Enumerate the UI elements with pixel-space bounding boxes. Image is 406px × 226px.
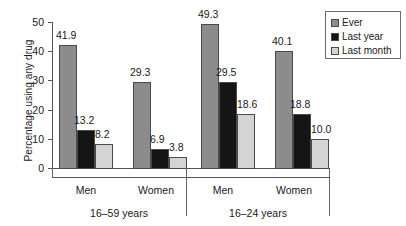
legend-swatch-last-year-icon (331, 33, 339, 41)
bar-value-g1-men-ever: 41.9 (56, 30, 76, 41)
group-label-16-24: 16–24 years (186, 207, 330, 219)
bar-g1-women-ever (133, 82, 151, 169)
bar-value-g2-men-last-year: 29.5 (216, 67, 236, 78)
group1-band-line (52, 177, 186, 178)
legend: Ever Last year Last month (325, 11, 401, 59)
legend-label-last-month: Last month (342, 46, 391, 56)
category-label-g2-women: Women (266, 184, 322, 196)
legend-item-last-year[interactable]: Last year (331, 30, 395, 43)
y-tick-label-20: 20 (22, 105, 44, 115)
bar-value-g2-women-ever: 40.1 (272, 36, 292, 47)
bar-value-g2-men-last-month: 18.6 (237, 99, 257, 110)
y-tick-label-30: 30 (22, 75, 44, 85)
bar-g2-men-last-year (219, 82, 237, 169)
bar-g2-men-last-month (237, 114, 255, 169)
bar-value-g2-women-last-year: 18.8 (290, 99, 310, 110)
legend-label-last-year: Last year (342, 32, 383, 42)
legend-swatch-last-month-icon (331, 47, 339, 55)
y-tick-label-40: 40 (22, 46, 44, 56)
bar-g1-men-last-year (77, 130, 95, 169)
bar-value-g2-women-last-month: 10.0 (311, 124, 331, 135)
group-label-16-59: 16–59 years (52, 207, 186, 219)
bar-g1-women-last-year (151, 149, 169, 169)
legend-label-ever: Ever (342, 18, 363, 28)
group2-band-line (186, 177, 330, 178)
bar-g1-men-last-month (95, 144, 113, 169)
bar-g1-women-last-month (169, 157, 187, 169)
bar-g2-men-ever (201, 24, 219, 169)
bar-g2-women-last-year (293, 114, 311, 169)
category-label-g2-men: Men (199, 184, 247, 196)
legend-item-last-month[interactable]: Last month (331, 44, 395, 57)
bar-g2-women-last-month (311, 139, 329, 169)
category-label-g1-women: Women (128, 184, 184, 196)
bar-value-g1-women-last-month: 3.8 (169, 142, 184, 153)
bar-value-g1-men-last-year: 13.2 (74, 115, 94, 126)
bar-value-g1-men-last-month: 8.2 (95, 129, 110, 140)
legend-swatch-ever-icon (331, 19, 339, 27)
bar-g1-men-ever (59, 45, 77, 169)
bar-g2-women-ever (275, 51, 293, 169)
bar-value-g2-men-ever: 49.3 (198, 9, 218, 20)
bar-value-g1-women-last-year: 6.9 (150, 134, 165, 145)
y-axis-line (52, 22, 53, 169)
y-tick-label-50: 50 (22, 17, 44, 27)
y-tick-label-10: 10 (22, 134, 44, 144)
category-label-g1-men: Men (62, 184, 110, 196)
legend-item-ever[interactable]: Ever (331, 16, 395, 29)
bar-value-g1-women-ever: 29.3 (130, 67, 150, 78)
y-tick-label-0: 0 (22, 163, 44, 173)
bar-chart: Percentage using any drug 0 10 20 30 40 … (0, 0, 406, 226)
